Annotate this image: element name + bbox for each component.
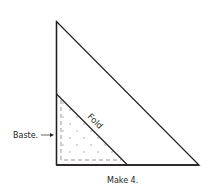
baste-label: Baste. [13,131,38,140]
outer-triangle [57,22,200,166]
quilt-diagram: Fold Baste. Make 4. [0,0,208,192]
caption: Make 4. [107,176,138,185]
baste-arrow-icon [50,133,54,137]
